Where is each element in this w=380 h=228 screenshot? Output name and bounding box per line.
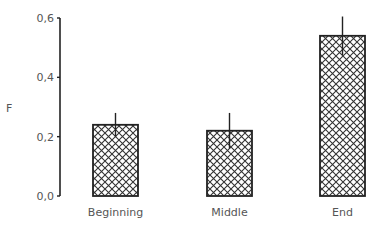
y-tick-label: 0,2 bbox=[37, 131, 55, 144]
x-axis-categories: BeginningMiddleEnd bbox=[88, 206, 353, 219]
y-tick-label: 0,6 bbox=[37, 12, 55, 25]
y-tick-label: 0,4 bbox=[37, 71, 55, 84]
y-axis-label: F bbox=[6, 102, 12, 115]
bar-middle bbox=[207, 113, 252, 196]
bar-beginning bbox=[93, 113, 138, 196]
y-tick-label: 0,0 bbox=[37, 190, 55, 203]
y-axis: 0,00,20,40,6 bbox=[37, 12, 61, 203]
bar-chart: 0,00,20,40,6 F BeginningMiddleEnd bbox=[0, 0, 380, 228]
x-category-label: Beginning bbox=[88, 206, 143, 219]
bar-end bbox=[320, 17, 365, 196]
x-category-label: End bbox=[332, 206, 353, 219]
bars bbox=[93, 17, 365, 196]
x-category-label: Middle bbox=[211, 206, 248, 219]
